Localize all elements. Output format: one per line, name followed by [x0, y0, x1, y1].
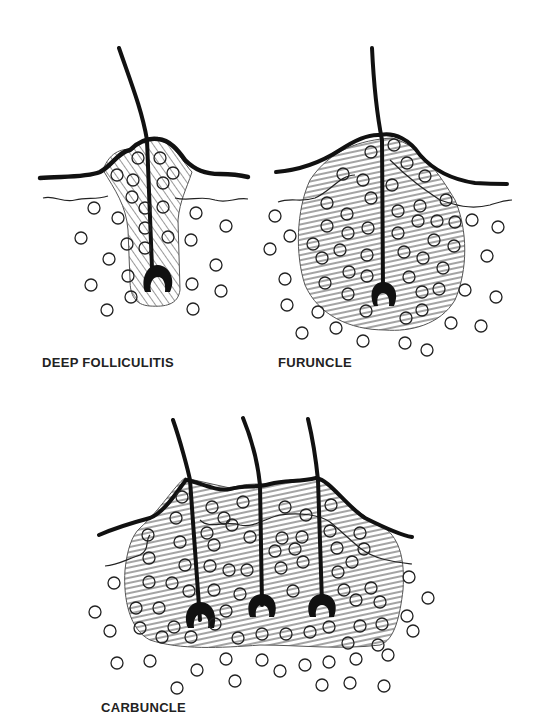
- panel-furuncle: [264, 48, 512, 356]
- label-deep-folliculitis: DEEP FOLLICULITIS: [42, 355, 174, 370]
- label-furuncle: FURUNCLE: [278, 355, 352, 370]
- panel-carbuncle: [89, 418, 434, 694]
- label-carbuncle: CARBUNCLE: [101, 700, 186, 715]
- panel-deep-folliculitis: [40, 48, 248, 316]
